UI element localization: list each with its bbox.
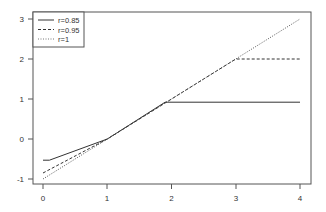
y-tick-labels: -1 0 1 2 3: [17, 15, 25, 184]
y-axis: [28, 19, 33, 179]
line-chart: -1 0 1 2 3 0 1 2 3 4 r=0.85 r=0.95 r=1: [0, 0, 326, 212]
y-tick-label: -1: [17, 175, 25, 184]
x-tick-label: 2: [169, 194, 174, 203]
y-tick-label: 2: [20, 55, 25, 64]
x-tick-label: 0: [41, 194, 46, 203]
x-tick-labels: 0 1 2 3 4: [41, 194, 303, 203]
x-axis: [43, 184, 300, 189]
series-line-dashed: [43, 59, 300, 173]
series-line-solid: [43, 102, 300, 160]
legend-label-r095: r=0.95: [58, 26, 79, 35]
y-tick-label: 1: [20, 95, 25, 104]
legend-label-r1: r=1: [58, 35, 69, 44]
legend: r=0.85 r=0.95 r=1: [33, 12, 84, 47]
y-tick-label: 0: [20, 135, 25, 144]
legend-label-r085: r=0.85: [58, 16, 79, 25]
y-tick-label: 3: [20, 15, 25, 24]
x-tick-label: 3: [234, 194, 239, 203]
x-tick-label: 1: [105, 194, 110, 203]
x-tick-label: 4: [298, 194, 303, 203]
